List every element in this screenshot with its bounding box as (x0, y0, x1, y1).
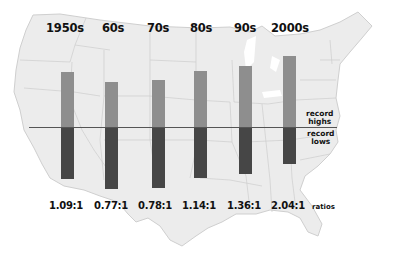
bar-lows-70s (152, 127, 165, 188)
decade-label-1950s: 1950s (46, 21, 84, 35)
bar-lows-2000s (283, 127, 296, 164)
ratio-60s: 0.77:1 (94, 200, 128, 211)
bar-highs-80s (194, 71, 207, 127)
legend-record-lows: record lows (307, 130, 334, 145)
decade-label-70s: 70s (147, 21, 169, 35)
bar-highs-90s (239, 66, 252, 127)
bar-highs-1950s (61, 72, 74, 127)
decade-label-2000s: 2000s (271, 21, 309, 35)
ratio-70s: 0.78:1 (138, 200, 172, 211)
bar-highs-60s (105, 82, 118, 127)
decade-label-60s: 60s (102, 21, 124, 35)
ratio-80s: 1.14:1 (182, 200, 216, 211)
legend-highs-line2: highs (306, 118, 333, 126)
decade-label-90s: 90s (234, 21, 256, 35)
bar-highs-70s (152, 80, 165, 127)
ratio-1950s: 1.09:1 (49, 200, 83, 211)
bar-lows-80s (194, 127, 207, 178)
legend-record-highs: record highs (306, 110, 333, 125)
ratios-label: ratios (312, 203, 335, 211)
ratio-90s: 1.36:1 (227, 200, 261, 211)
ratio-2000s: 2.04:1 (271, 200, 305, 211)
bar-lows-90s (239, 127, 252, 174)
bar-lows-1950s (61, 127, 74, 179)
divider-line (29, 127, 337, 128)
bar-highs-2000s (283, 56, 296, 127)
decade-label-80s: 80s (190, 21, 212, 35)
legend-lows-line2: lows (307, 138, 334, 146)
bar-lows-60s (105, 127, 118, 189)
